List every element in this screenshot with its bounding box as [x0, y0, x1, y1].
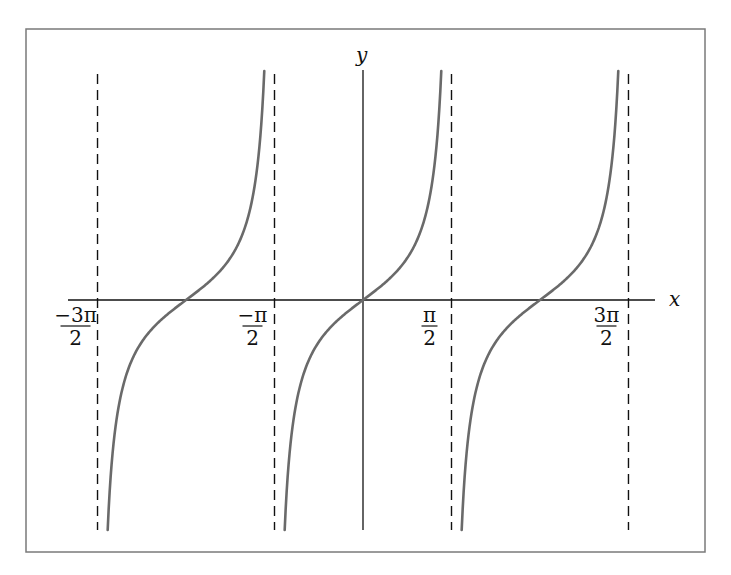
svg-text:2: 2 — [69, 326, 82, 350]
svg-text:2: 2 — [600, 326, 613, 350]
svg-text:3π: 3π — [594, 303, 620, 327]
svg-text:−π: −π — [238, 303, 268, 327]
x-axis-label: x — [669, 287, 680, 311]
x-tick-labels: −3π2−π2π23π2 — [54, 303, 619, 350]
svg-text:2: 2 — [246, 326, 259, 350]
tangent-chart: −3π2−π2π23π2 x y — [0, 0, 731, 575]
x-tick-label: −3π2 — [54, 303, 97, 350]
svg-text:2: 2 — [423, 326, 436, 350]
chart-frame — [26, 29, 705, 552]
svg-text:−3π: −3π — [54, 303, 97, 327]
x-tick-label: −π2 — [238, 303, 268, 350]
x-tick-label: π2 — [422, 303, 438, 350]
y-axis-label: y — [355, 43, 368, 67]
x-tick-label: 3π2 — [594, 303, 620, 350]
svg-text:π: π — [423, 303, 436, 327]
